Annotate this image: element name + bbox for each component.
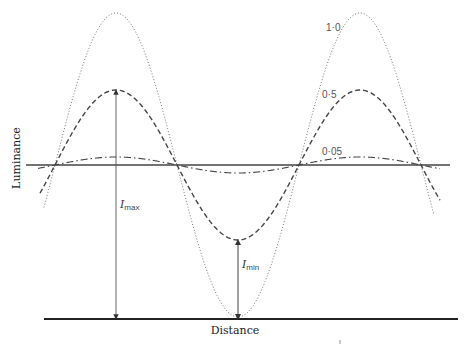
imax-label: Imax (119, 198, 139, 212)
y-axis-label: Luminance (10, 127, 23, 189)
curve-label-1-0: 1·0 (326, 22, 341, 33)
luminance-sinusoid-diagram: 1·0 0·5 0·05 Imax Imin Distance Luminanc… (0, 0, 468, 344)
x-axis-label: Distance (211, 324, 260, 337)
curve-label-0-5: 0·5 (322, 89, 337, 100)
curve-label-0-05: 0·05 (322, 146, 342, 157)
imin-label: Imin (241, 258, 259, 272)
